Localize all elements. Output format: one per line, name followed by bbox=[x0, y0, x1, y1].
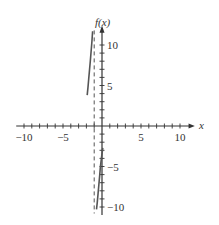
x-tick-label: 5 bbox=[138, 131, 144, 143]
x-axis-label: x bbox=[198, 119, 204, 131]
x-tick-label: −10 bbox=[15, 131, 33, 143]
y-axis-label: f(x) bbox=[95, 16, 111, 29]
labels: f(x) x −10−5510−10−5510 bbox=[15, 16, 204, 213]
y-tick-label: −10 bbox=[107, 201, 125, 213]
x-tick-label: 10 bbox=[175, 131, 187, 143]
x-axis-arrow-icon bbox=[189, 124, 195, 129]
y-tick-label: 5 bbox=[107, 80, 113, 92]
function-graph: f(x) x −10−5510−10−5510 bbox=[0, 0, 219, 225]
x-tick-label: −5 bbox=[57, 131, 69, 143]
axes bbox=[16, 26, 195, 216]
curve-left-branch bbox=[87, 31, 92, 95]
y-tick-label: −5 bbox=[107, 161, 119, 173]
y-tick-label: 10 bbox=[107, 39, 119, 51]
